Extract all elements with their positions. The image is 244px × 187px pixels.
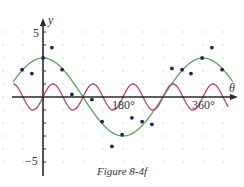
grid-dot [22, 161, 23, 162]
grid-dot [182, 57, 183, 58]
grid-dot [122, 148, 123, 149]
grid-dot [2, 96, 3, 97]
grid-dot [202, 31, 203, 32]
grid-dot [182, 109, 183, 110]
grid-dot [62, 161, 63, 162]
data-point [150, 122, 154, 126]
grid-dot [2, 148, 3, 149]
grid-dot [182, 122, 183, 123]
grid-dot [62, 122, 63, 123]
grid-dot [162, 44, 163, 45]
axis-labels: y θ 5 −5 180° 360° [25, 13, 235, 168]
data-point [180, 68, 184, 72]
grid-dot [62, 148, 63, 149]
grid-dot [222, 44, 223, 45]
grid-dot [142, 148, 143, 149]
chart: y θ 5 −5 180° 360° [0, 0, 244, 187]
grid-dot [82, 44, 83, 45]
data-point [60, 68, 64, 72]
grid-dot [182, 83, 183, 84]
grid-dot [202, 148, 203, 149]
grid-dot [102, 161, 103, 162]
grid-dot [102, 83, 103, 84]
grid-dot [202, 122, 203, 123]
grid-dot [82, 31, 83, 32]
grid-dot [122, 83, 123, 84]
grid-dot [182, 148, 183, 149]
grid-dot [102, 57, 103, 58]
grid-dot [2, 70, 3, 71]
grid-dot [82, 70, 83, 71]
grid-dot [22, 44, 23, 45]
grid-dot [22, 31, 23, 32]
grid-dot [82, 135, 83, 136]
grid-dot [162, 122, 163, 123]
grid-dot [102, 70, 103, 71]
grid-dot [2, 122, 3, 123]
data-point [170, 67, 174, 71]
grid-dot [162, 109, 163, 110]
grid-dot [82, 148, 83, 149]
grid-dot [162, 57, 163, 58]
grid-dot [202, 83, 203, 84]
grid-dot [122, 122, 123, 123]
data-point [189, 72, 193, 76]
data-point [50, 46, 54, 50]
grid-dot [122, 161, 123, 162]
grid-dot [162, 135, 163, 136]
data-point [120, 133, 124, 137]
grid-dot [22, 83, 23, 84]
grid-dot [82, 161, 83, 162]
grid-dot [102, 44, 103, 45]
grid-dot [202, 161, 203, 162]
grid-dot [102, 135, 103, 136]
grid-dot [202, 70, 203, 71]
grid-dot [182, 44, 183, 45]
grid-dot [182, 161, 183, 162]
grid-dot [22, 57, 23, 58]
x-tick-360: 360° [192, 98, 215, 112]
y-axis-label: y [47, 13, 54, 27]
grid-dot [142, 83, 143, 84]
grid-dot [82, 57, 83, 58]
grid-dot [22, 135, 23, 136]
grid-dot [142, 57, 143, 58]
grid-dot [62, 57, 63, 58]
data-point [220, 68, 224, 72]
grid-dot [142, 70, 143, 71]
data-point [20, 68, 24, 72]
axes [12, 18, 238, 176]
grid-dot [2, 109, 3, 110]
data-point [100, 120, 104, 124]
grid-dot [162, 31, 163, 32]
grid-dot [202, 44, 203, 45]
grid-dot [222, 109, 223, 110]
x-axis-label: θ [229, 81, 235, 95]
x-tick-180: 180° [112, 98, 135, 112]
grid-dot [222, 135, 223, 136]
grid-dot [222, 57, 223, 58]
figure-caption: Figure 8-4f [0, 165, 244, 177]
grid-dot [142, 44, 143, 45]
grid-dot [122, 70, 123, 71]
grid-dot [122, 57, 123, 58]
data-point [210, 46, 214, 50]
grid-dot [2, 57, 3, 58]
grid-dot [222, 31, 223, 32]
grid-dot [82, 122, 83, 123]
grid-dot [2, 44, 3, 45]
data-point [90, 98, 94, 102]
grid-dot [182, 135, 183, 136]
grid-dot [122, 44, 123, 45]
grid-dot [142, 109, 143, 110]
data-point [130, 116, 134, 120]
grid-dot [2, 135, 3, 136]
grid-dot [162, 70, 163, 71]
grid-dot [142, 31, 143, 32]
grid-dot [102, 31, 103, 32]
grid-dot [62, 44, 63, 45]
grid-dot [162, 148, 163, 149]
grid-dot [162, 161, 163, 162]
grid-dot [102, 148, 103, 149]
grid-dot [2, 31, 3, 32]
